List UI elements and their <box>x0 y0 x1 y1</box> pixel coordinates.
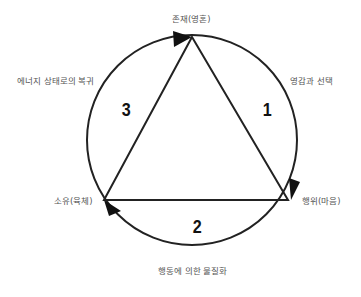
arc-right-label: 영감과 선택 <box>290 74 333 86</box>
cycle-diagram <box>0 0 361 297</box>
node-top-label: 존재(영혼) <box>172 12 211 24</box>
step-number-1: 1 <box>263 99 272 121</box>
arrow-right-icon <box>289 178 300 200</box>
node-left-label: 소유(육체) <box>54 194 93 206</box>
node-right-label: 행위(마음) <box>302 194 341 206</box>
arc-left-label: 에너지 상태로의 복귀 <box>17 74 94 86</box>
step-number-3: 3 <box>122 99 131 121</box>
step-number-2: 2 <box>193 216 202 238</box>
cycle-circle <box>87 35 297 245</box>
arc-bottom-label: 행동에 의한 물질화 <box>158 264 227 276</box>
arrow-top-icon <box>173 31 192 47</box>
